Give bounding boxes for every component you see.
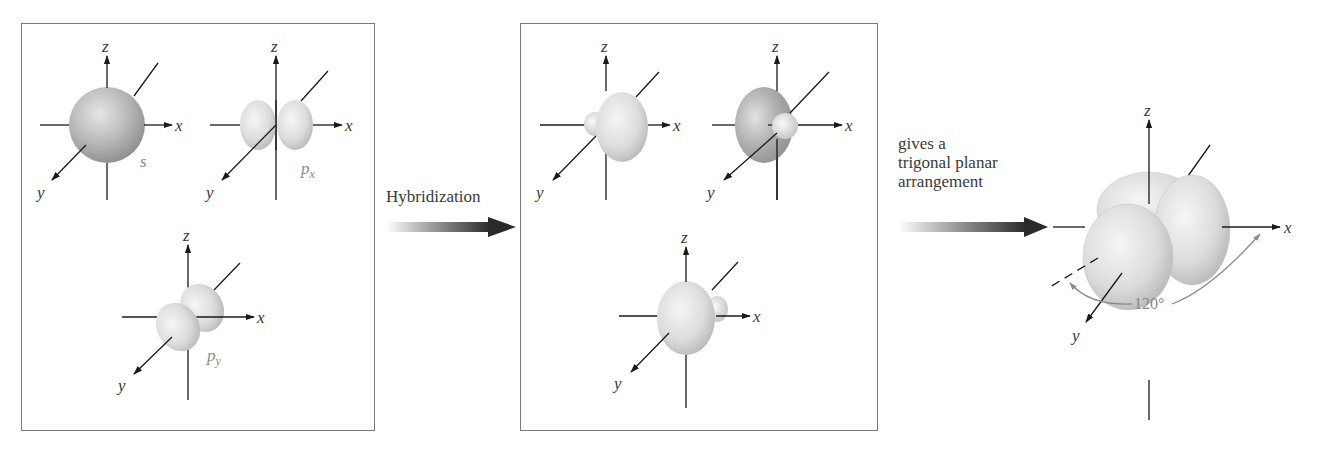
trigonal-arrow — [898, 217, 1048, 237]
hybridization-arrow — [386, 217, 516, 237]
y-axis-label: y — [534, 183, 544, 202]
trigonal-caption: gives a trigonal planar arrangement — [898, 134, 1038, 191]
hybrid-large-lobe — [657, 281, 715, 355]
py-orbital-figure: z x y py — [116, 226, 265, 400]
bond-angle-label: 120° — [1134, 295, 1164, 312]
z-axis-label: z — [771, 37, 779, 56]
z-axis-label: z — [101, 37, 109, 56]
s-orbital-label: s — [140, 152, 147, 171]
diagram-canvas: z x y s z x y px z x y py — [0, 0, 1322, 450]
x-axis-label: x — [672, 116, 681, 135]
x-axis-label: x — [344, 116, 353, 135]
z-axis-label: z — [270, 37, 278, 56]
y-axis-label: y — [1070, 326, 1080, 345]
y-axis-label: y — [204, 183, 214, 202]
py-orbital-label: py — [206, 346, 222, 368]
y-axis-label: y — [35, 183, 45, 202]
trigonal-planar-result: 120° z x y — [1050, 101, 1292, 420]
z-axis-label: z — [680, 228, 688, 247]
z-axis-label: z — [600, 37, 608, 56]
x-axis-label: x — [1283, 218, 1292, 237]
px-orbital-label: px — [300, 159, 316, 181]
x-axis-label: x — [752, 307, 761, 326]
sp2-hybrid-orbital-3: z x y — [612, 228, 761, 408]
z-axis-label: z — [182, 226, 190, 245]
hybrid-small-lobe — [772, 113, 798, 139]
sp2-hybrid-orbital-2: z x y — [705, 37, 853, 202]
px-orbital-figure: z x y px — [204, 37, 353, 202]
hybridization-caption: Hybridization — [386, 187, 480, 206]
y-axis-label: y — [612, 374, 622, 393]
y-axis-label: y — [116, 376, 126, 395]
z-axis-label: z — [1143, 101, 1151, 120]
sp2-hybrid-orbital-1: z x y — [534, 37, 681, 202]
x-axis-label: x — [174, 116, 183, 135]
s-orbital-figure: z x y s — [35, 37, 183, 202]
px-lobe-positive — [277, 100, 313, 150]
x-axis-label: x — [256, 308, 265, 327]
x-axis-label: x — [844, 116, 853, 135]
hybrid-large-lobe — [596, 92, 648, 162]
y-axis-label: y — [705, 183, 715, 202]
